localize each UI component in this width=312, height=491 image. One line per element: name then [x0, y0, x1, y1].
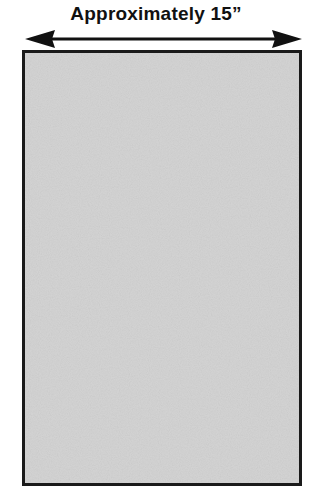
speckle-texture: [25, 53, 299, 483]
fabric-panel: [22, 50, 302, 486]
double-arrow-icon: [0, 28, 312, 50]
dimension-label: Approximately 15”: [0, 3, 312, 25]
